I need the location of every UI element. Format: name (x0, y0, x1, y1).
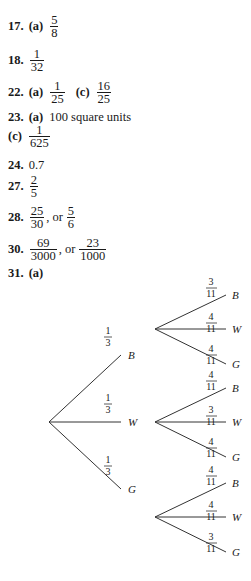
svg-text:B: B (128, 349, 135, 361)
svg-text:B: B (232, 382, 239, 394)
svg-text:11: 11 (206, 416, 216, 427)
svg-text:4: 4 (209, 311, 214, 322)
svg-text:4: 4 (209, 499, 214, 510)
svg-text:W: W (232, 323, 242, 335)
probability-labels: 1 3 1 3 1 3 3 11 4 11 4 11 4 11 3 11 4 1… (106, 276, 216, 554)
svg-text:3: 3 (106, 337, 111, 348)
svg-text:11: 11 (206, 355, 216, 366)
svg-text:11: 11 (206, 288, 216, 299)
svg-text:B: B (232, 477, 239, 489)
svg-text:1: 1 (106, 454, 111, 465)
svg-text:3: 3 (106, 466, 111, 477)
svg-text:B: B (232, 289, 239, 301)
svg-text:3: 3 (106, 404, 111, 415)
svg-text:1: 1 (106, 325, 111, 336)
svg-text:11: 11 (206, 476, 216, 487)
probability-tree-diagram: 1 3 1 3 1 3 3 11 4 11 4 11 4 11 3 11 4 1… (0, 0, 251, 581)
svg-text:G: G (232, 358, 240, 370)
svg-text:3: 3 (209, 531, 214, 542)
svg-text:4: 4 (209, 436, 214, 447)
svg-text:11: 11 (206, 543, 216, 554)
svg-text:11: 11 (206, 381, 216, 392)
svg-text:3: 3 (209, 404, 214, 415)
svg-text:4: 4 (209, 343, 214, 354)
svg-text:G: G (232, 546, 240, 558)
svg-text:4: 4 (209, 369, 214, 380)
svg-text:11: 11 (206, 323, 216, 334)
svg-text:4: 4 (209, 464, 214, 475)
svg-text:G: G (232, 451, 240, 463)
svg-text:W: W (128, 416, 138, 428)
svg-text:G: G (128, 483, 136, 495)
svg-text:11: 11 (206, 511, 216, 522)
svg-text:W: W (232, 511, 242, 523)
svg-text:1: 1 (106, 392, 111, 403)
svg-text:W: W (232, 416, 242, 428)
tree-branches (49, 295, 226, 552)
svg-text:3: 3 (209, 276, 214, 287)
svg-text:11: 11 (206, 448, 216, 459)
